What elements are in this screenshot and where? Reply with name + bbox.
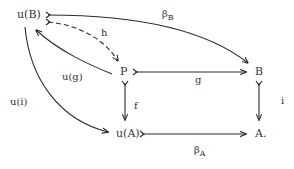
label-h: h [101,28,107,38]
node-A: A. [255,128,266,139]
label-f: f [134,101,138,111]
label-u-i: u(i) [10,97,27,107]
arrow-h [48,22,118,61]
label-g: g [195,75,201,85]
label-beta-A: βA [194,145,206,158]
node-u-B: u(B) [17,9,41,20]
label-beta-B: βB [162,9,174,22]
node-B: B [255,66,263,77]
node-P: P [120,66,127,77]
node-u-A: u(A) [116,128,140,139]
label-u-g: u(g) [62,72,83,82]
label-i: i [281,96,284,106]
arrow-beta-B [48,15,248,63]
diagram-canvas [0,0,294,169]
